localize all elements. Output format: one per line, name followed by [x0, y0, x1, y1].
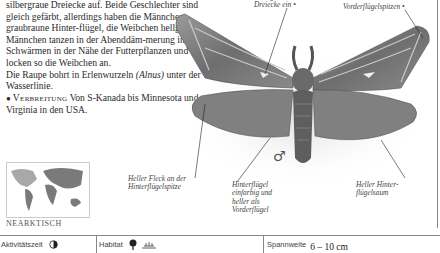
caterpillar-text: Die Raupe bohrt in Erlenwurzeln: [6, 69, 136, 80]
leader-dot-icon: •: [402, 2, 405, 11]
annotation-text: Heller Fleck an der Hinterflügelspitze: [128, 174, 186, 191]
annotation-hindwing-margin: Heller Hinter- flügelsaum: [356, 181, 398, 198]
activity-cell: Aktivitätszeit: [0, 236, 97, 253]
habitat-label: Habitat: [99, 240, 123, 249]
male-symbol-icon: ♂: [273, 148, 286, 164]
annotation-hindwing-plain: Hinterflügel einfarbig und heller als Vo…: [232, 181, 272, 215]
region-label: NEARKTISCH: [6, 219, 62, 228]
bullet-icon: ●: [6, 94, 11, 103]
annotation-text: Vorderflügelspitzen: [343, 2, 400, 11]
genus-name: (Alnus): [136, 69, 164, 80]
leader-dot-icon: •: [293, 0, 296, 9]
habitat-cell: Habitat: [97, 236, 264, 253]
deciduous-tree-icon: [129, 239, 137, 250]
annotation-silver-triangles: silbergrauen Dreiecke ein •: [254, 0, 296, 10]
activity-label: Aktivitätszeit: [1, 240, 43, 249]
distribution-label: Verbreitung: [13, 92, 68, 103]
annotation-forewing-tips: Vorderflügelspitzen •: [343, 3, 405, 11]
page-border: [437, 0, 438, 228]
world-map-icon: [7, 163, 89, 217]
annotation-text: silbergrauen Dreiecke ein: [254, 0, 292, 9]
annotation-text: Hinterflügel einfarbig und heller als Vo…: [232, 180, 272, 214]
wetland-icon: [141, 241, 157, 249]
wingspan-value: 6 – 10 cm: [310, 242, 348, 252]
info-bar: Aktivitätszeit Habitat Spannweite 6 – 10…: [0, 235, 440, 253]
moth-illustration: [165, 8, 437, 208]
distribution-map: [6, 162, 90, 218]
annotation-text: Heller Hinter- flügelsaum: [356, 180, 398, 197]
wingspan-label: Spannweite: [267, 240, 306, 249]
annotation-hindwing-tip-spot: Heller Fleck an der Hinterflügelspitze: [128, 175, 186, 192]
wingspan-cell: Spannweite 6 – 10 cm: [264, 236, 440, 253]
half-moon-icon: [49, 240, 58, 249]
